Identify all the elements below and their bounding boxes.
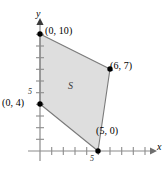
point-5-0 (95, 148, 100, 153)
vertex-label-5-0: (5, 0) (96, 126, 118, 136)
x-axis-arrowhead (150, 147, 157, 154)
region-label-s: S (68, 81, 73, 91)
vertex-label-6-7: (6, 7) (110, 61, 132, 71)
y-axis-label: y (36, 9, 40, 19)
vertex-label-0-4: (0, 4) (2, 98, 24, 108)
vertex-label-0-10: (0, 10) (45, 26, 72, 36)
x-tick-label-5: 5 (90, 155, 94, 163)
plot-canvas (0, 0, 168, 169)
coordinate-plane-figure: (0, 10) (6, 7) (5, 0) (0, 4) S x y 5 5 (0, 0, 168, 169)
y-axis-arrowhead (36, 18, 43, 25)
y-tick-label-5: 5 (28, 88, 32, 96)
x-axis-label: x (157, 142, 161, 152)
point-0-10 (37, 31, 42, 36)
point-0-4 (37, 101, 42, 106)
